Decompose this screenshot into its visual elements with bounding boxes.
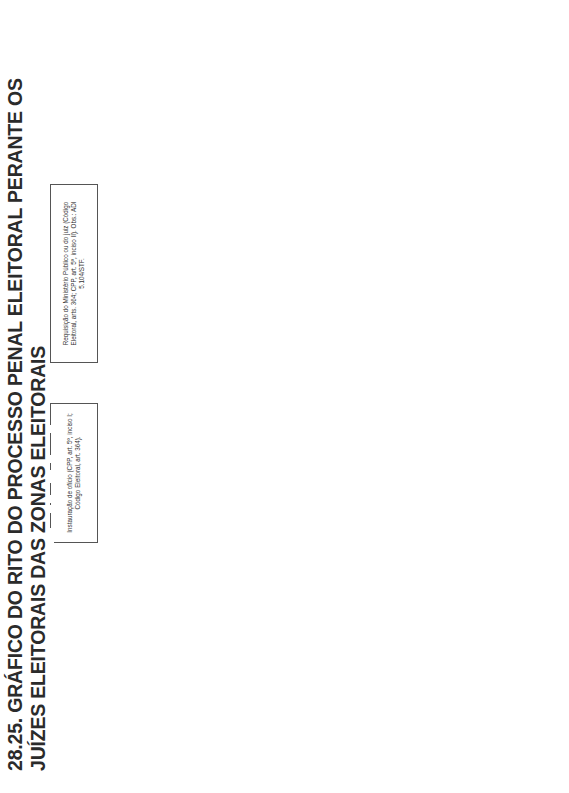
spacer: [50, 645, 54, 653]
box-requisicao: Requisição do Ministério Público ou do j…: [50, 184, 98, 363]
spacer: [55, 575, 59, 583]
spacer: [62, 660, 66, 668]
spacer: [50, 625, 54, 633]
spacer: [50, 577, 54, 585]
spacer: [50, 495, 54, 503]
box-instauracao: Instauração de ofício (CPP, art. 5º, inc…: [50, 403, 98, 543]
spacer: [62, 625, 66, 633]
spacer: [50, 471, 54, 479]
spacer: [48, 505, 52, 513]
page-title: 28.25. GRÁFICO DO RITO DO PROCESSO PENAL…: [4, 11, 50, 771]
spacer: [64, 600, 68, 608]
spacer: [50, 660, 54, 668]
spacer: [62, 587, 66, 595]
spacer: [50, 425, 54, 433]
box-text: Instauração de ofício (CPP, art. 5º, inc…: [66, 408, 82, 538]
box-text: Requisição do Ministério Público ou do j…: [62, 189, 86, 358]
spacer: [50, 528, 54, 618]
flowchart-page: 28.25. GRÁFICO DO RITO DO PROCESSO PENAL…: [0, 0, 569, 793]
spacer: [47, 455, 51, 463]
spacer: [50, 610, 54, 618]
spacer: [60, 517, 64, 525]
spacer: [62, 575, 66, 583]
spacer: [50, 685, 54, 693]
